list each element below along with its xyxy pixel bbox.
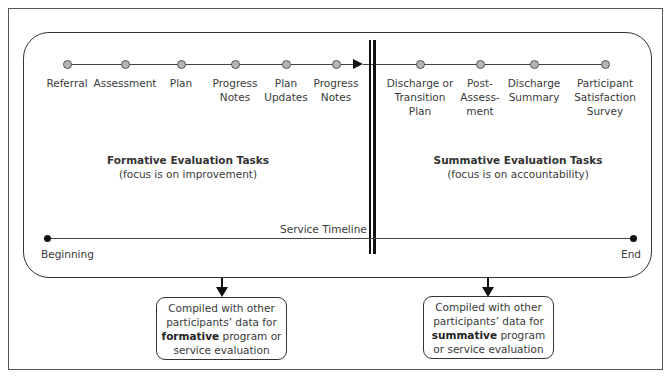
formative-section-title: Formative Evaluation Tasks <box>107 154 269 166</box>
formative-box-line1: Compiled with other <box>157 301 286 315</box>
formative-box-line2: participants’ data for <box>157 315 286 329</box>
timeline-node-icon <box>416 60 425 69</box>
timeline-end-label: End <box>621 248 641 260</box>
formative-box-bold: formative <box>162 330 220 342</box>
summative-box-line3: summative program <box>424 328 553 342</box>
summative-box-bold: summative <box>432 329 497 341</box>
summative-box-line3-rest: program <box>497 329 545 341</box>
service-timeline-label: Service Timeline <box>280 223 367 235</box>
timeline-step-label: Participant Satisfaction Survey <box>574 76 636 118</box>
timeline-step-label: Progress Notes <box>213 76 258 104</box>
service-timeline-line <box>47 238 634 239</box>
formative-box-line3-rest: program or <box>219 330 281 342</box>
summative-box-line4: or service evaluation <box>424 342 553 356</box>
formative-section-subtitle: (focus is on improvement) <box>119 168 257 180</box>
timeline-step-label: Post- Assess- ment <box>460 76 499 118</box>
timeline-end-dot <box>630 235 637 242</box>
timeline-node-icon <box>177 60 186 69</box>
timeline-step-label: Discharge Summary <box>508 76 561 104</box>
formative-box-line3: formative program or <box>157 329 286 343</box>
formative-box-line4: service evaluation <box>157 343 286 357</box>
formative-timeline-line <box>67 64 354 65</box>
summative-section-title: Summative Evaluation Tasks <box>434 154 603 166</box>
summative-section-subtitle: (focus is on accountability) <box>447 168 589 180</box>
timeline-arrow-icon <box>353 59 363 69</box>
timeline-step-label: Assessment <box>94 76 157 90</box>
formative-output-box: Compiled with other participants’ data f… <box>156 297 287 360</box>
timeline-node-icon <box>282 60 291 69</box>
summative-output-box: Compiled with other participants’ data f… <box>423 296 554 359</box>
timeline-node-icon <box>231 60 240 69</box>
summative-box-line1: Compiled with other <box>424 300 553 314</box>
timeline-step-label: Plan <box>170 76 192 90</box>
timeline-step-label: Plan Updates <box>264 76 308 104</box>
summative-box-line2: participants’ data for <box>424 314 553 328</box>
phase-divider-thin <box>369 40 371 254</box>
timeline-node-icon <box>476 60 485 69</box>
phase-divider-thick <box>373 40 376 254</box>
timeline-step-label: Progress Notes <box>314 76 359 104</box>
timeline-step-label: Discharge or Transition Plan <box>387 76 454 118</box>
timeline-node-icon <box>332 60 341 69</box>
formative-arrow-down-icon <box>216 287 228 297</box>
timeline-node-icon <box>601 60 610 69</box>
timeline-step-label: Referral <box>46 76 87 90</box>
timeline-node-icon <box>530 60 539 69</box>
timeline-node-icon <box>121 60 130 69</box>
timeline-start-dot <box>44 235 51 242</box>
timeline-node-icon <box>63 60 72 69</box>
timeline-start-label: Beginning <box>41 248 94 260</box>
